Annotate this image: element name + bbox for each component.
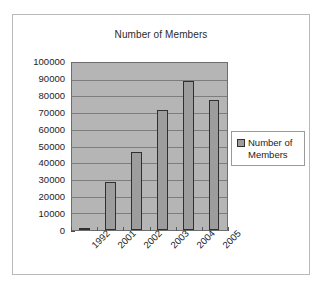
chart-frame: Number of Members 1000009000080000700006… <box>12 14 310 275</box>
bar-slot <box>72 63 98 230</box>
legend-label: Number of Members <box>248 137 300 160</box>
x-axis-tick-label: 2003 <box>168 243 176 251</box>
bar[interactable] <box>157 110 168 230</box>
x-axis-tick <box>228 227 229 231</box>
x-axis-tick-label: 2002 <box>142 243 150 251</box>
bar-slot <box>98 63 124 230</box>
bar[interactable] <box>209 100 220 230</box>
y-axis-tick-label: 100000 <box>33 56 65 68</box>
x-axis-tick-label: 1992 <box>89 243 97 251</box>
y-axis: 1000009000080000700006000050000400003000… <box>19 56 67 237</box>
bar-series <box>72 63 227 230</box>
bar-slot <box>201 63 227 230</box>
bar-slot <box>124 63 150 230</box>
y-axis-tick-label: 90000 <box>39 73 65 85</box>
y-axis-tick-label: 0 <box>60 225 65 237</box>
x-axis-tick <box>97 227 98 231</box>
legend: Number of Members <box>231 131 305 166</box>
y-axis-tick-label: 20000 <box>39 191 65 203</box>
y-axis-tick-label: 60000 <box>39 124 65 136</box>
x-axis-tick-label: 2001 <box>115 243 123 251</box>
x-axis-tick <box>176 227 177 231</box>
x-axis-tick-label: 2004 <box>194 243 202 251</box>
bar-slot <box>149 63 175 230</box>
x-axis: 199220012002200320042005 <box>71 231 228 277</box>
x-axis-tick <box>202 227 203 231</box>
bar[interactable] <box>105 182 116 230</box>
bar[interactable] <box>131 152 142 230</box>
y-axis-tick-label: 10000 <box>39 208 65 220</box>
plot-area <box>71 62 228 231</box>
y-axis-tick-label: 50000 <box>39 141 65 153</box>
bar[interactable] <box>183 81 194 230</box>
chart-title: Number of Members <box>13 29 309 40</box>
x-axis-tick-label: 2005 <box>220 243 228 251</box>
y-axis-tick-label: 30000 <box>39 174 65 186</box>
x-axis-tick <box>150 227 151 231</box>
y-axis-tick-label: 70000 <box>39 107 65 119</box>
bar[interactable] <box>79 228 90 230</box>
x-axis-tick <box>123 227 124 231</box>
y-axis-tick-label: 40000 <box>39 157 65 169</box>
legend-swatch-icon <box>237 139 245 147</box>
y-axis-tick-label: 80000 <box>39 90 65 102</box>
legend-item: Number of Members <box>237 137 300 160</box>
x-axis-tick <box>71 227 72 231</box>
bar-slot <box>175 63 201 230</box>
